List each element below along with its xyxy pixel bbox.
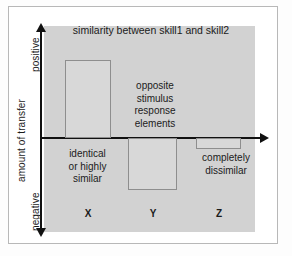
x-axis-right-arrow-icon [260, 133, 269, 143]
annotation-x: identical or highly similar [50, 148, 125, 186]
y-axis-positive-label: positive [30, 37, 41, 72]
annotation-y-line-4: elements [120, 118, 190, 131]
y-axis-up-arrow-icon [36, 23, 46, 32]
category-label-z: Z [204, 208, 234, 219]
chart-title: similarity between skill1 and skill2 [44, 24, 258, 36]
annotation-y: opposite stimulus response elements [120, 80, 190, 130]
chart-figure: similarity between skill1 and skill2 pos… [0, 0, 292, 256]
annotation-x-line-3: similar [50, 173, 125, 186]
annotation-z: completely dissimilar [190, 152, 262, 177]
y-axis-title: amount of transfer [16, 99, 27, 182]
annotation-y-line-2: stimulus [120, 93, 190, 106]
bar-y [128, 138, 177, 190]
annotation-z-line-2: dissimilar [190, 165, 262, 178]
annotation-y-line-1: opposite [120, 80, 190, 93]
y-axis-negative-label: negative [30, 192, 41, 231]
category-label-x: X [73, 208, 103, 219]
bar-x [65, 60, 111, 138]
annotation-y-line-3: response [120, 105, 190, 118]
annotation-x-line-1: identical [50, 148, 125, 161]
bar-z [196, 138, 241, 149]
category-label-y: Y [138, 208, 168, 219]
annotation-x-line-2: or highly [50, 161, 125, 174]
annotation-z-line-1: completely [190, 152, 262, 165]
